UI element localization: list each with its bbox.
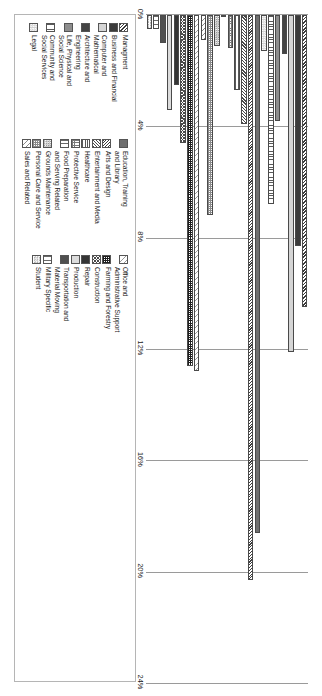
legend-item-label: Life, Physical and Social Science [57,35,73,86]
legend-item-label: Office and Administrative Support [113,267,129,332]
legend-item: Repair [81,255,91,371]
legend-item: Computer and Mathematical [92,23,108,139]
legend-swatch-icon [120,139,129,148]
plot-inner [146,14,308,682]
legend-swatch-icon [29,23,38,32]
bar-row [295,15,300,683]
bar [160,15,165,43]
legend-item: Legal [29,23,39,139]
bar-row [147,15,152,683]
axis-tick-label: 4% [136,120,145,131]
legend-item: Managment [120,23,130,139]
legend-item-label: Sales and Related [23,151,31,204]
legend-item: Entertainment and Media [92,139,102,255]
plot-area [146,14,308,682]
legend-swatch-icon [92,255,101,264]
legend-item: Community and Social Services [39,23,55,139]
bar [187,15,192,366]
rotated-figure-wrapper: 0%4%8%12%16%20%24% ManagmentBusiness and… [0,0,322,696]
legend-swatch-icon [71,139,80,148]
bar-row [174,15,179,683]
legend-item-label: Protective Service [72,151,80,203]
legend-item-label: Architecture and Engineering [74,35,90,82]
legend: ManagmentBusiness and FinancialComputer … [14,14,136,682]
axis-tick-label: 16% [136,452,145,467]
bar-row [275,15,280,683]
bar [147,15,152,29]
axis-tick-label: 8% [136,231,145,242]
axis-tick-label: 0% [136,9,145,20]
legend-item-label: Arts and Design [103,151,111,197]
legend-swatch-icon [120,23,129,32]
bar-row [302,15,307,683]
legend-item: Protective Service [71,139,81,255]
bar [214,15,219,46]
bar [282,15,287,54]
legend-item: Farming and Forestry [102,255,112,371]
legend-item: Architecture and Engineering [74,23,90,139]
legend-item-label: Student [33,267,41,289]
legend-item-label: Computer and Mathematical [92,35,108,76]
legend-swatch-icon [120,255,129,264]
legend-item-label: Managment [121,35,129,69]
bar [201,15,206,40]
bar [228,15,233,48]
bar-row [187,15,192,683]
legend-item: Grounds Maintenance [43,139,53,255]
legend-item: Military Specific [43,255,53,371]
legend-item: Life, Physical and Social Science [57,23,73,139]
legend-item: Personal Care and Service [32,139,42,255]
bar [302,15,307,307]
bar-row [268,15,273,683]
legend-swatch-icon [81,23,90,32]
bar-chart-figure: 0%4%8%12%16%20%24% ManagmentBusiness and… [0,0,322,696]
bar-row [214,15,219,683]
bar [248,15,253,580]
legend-swatch-icon [81,255,90,264]
legend-item: Education, Training and Library [113,139,129,255]
legend-item-label: Farming and Forestry [103,267,111,329]
legend-item-label: Business and Financial [110,35,118,102]
bar-row [167,15,172,683]
legend-item-label: Education, Training and Library [113,151,129,207]
legend-item-label: Repair [82,267,90,286]
bar-row [261,15,266,683]
legend-item: Office and Administrative Support [113,255,129,371]
legend-swatch-icon [32,255,41,264]
legend-item-label: Legal [30,35,38,51]
bar-row [201,15,206,683]
bar-row [241,15,246,683]
legend-item: Healthcare [81,139,91,255]
legend-item: Construction [92,255,102,371]
legend-swatch-icon [102,139,111,148]
bar [261,15,266,51]
bar [255,15,260,533]
legend-swatch-icon [32,139,41,148]
bar-row [282,15,287,683]
legend-item-label: Military Specific [44,267,52,312]
axis-tick-label: 12% [136,341,145,356]
bar-row [160,15,165,683]
bar-row [248,15,253,683]
bar-row [255,15,260,683]
legend-swatch-icon [71,255,80,264]
bar [221,15,226,17]
axis-tick-label: 24% [136,675,145,690]
bar-row [228,15,233,683]
legend-item-label: Personal Care and Service [33,151,41,229]
bar [207,15,212,215]
bar [268,15,273,204]
legend-item: Production [71,255,81,371]
legend-item: Arts and Design [102,139,112,255]
legend-swatch-icon [109,23,118,32]
bar [167,15,172,110]
legend-item-label: Grounds Maintenance [44,151,52,215]
bar-row [180,15,185,683]
legend-swatch-icon [81,139,90,148]
bar [234,15,239,90]
legend-swatch-icon [43,255,52,264]
legend-swatch-icon [46,23,55,32]
legend-item: Transportation and Material Moving [53,255,69,371]
legend-item-label: Community and Social Services [39,35,55,81]
legend-swatch-icon [64,23,73,32]
